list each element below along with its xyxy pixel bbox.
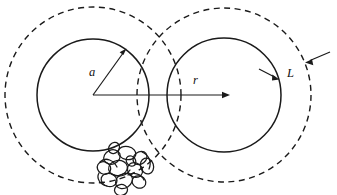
label-radius-r: r [193, 73, 198, 87]
radius-a-line [93, 53, 124, 96]
label-shell-L: L [286, 66, 294, 80]
shell-outer-arrowhead [305, 59, 313, 65]
radius-r-arrowhead [222, 92, 230, 99]
radius-a-arrow [93, 49, 127, 96]
label-radius-a: a [89, 65, 95, 79]
diagram-svg: a r L [0, 0, 337, 195]
shell-thickness-outer-arrow [305, 52, 330, 65]
shell-outer-line [310, 52, 330, 61]
shell-thickness-inner-arrow [259, 69, 280, 81]
radius-a-arrowhead [120, 49, 127, 56]
polymer-coil-cluster [95, 140, 156, 195]
radius-r-arrow [93, 92, 230, 99]
figure-canvas: a r L [0, 0, 337, 195]
